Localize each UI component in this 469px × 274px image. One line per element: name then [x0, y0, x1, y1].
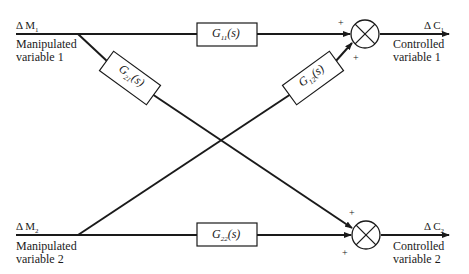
block-g11-label: G11(s)	[212, 27, 240, 45]
m2-base: Δ M	[16, 220, 35, 232]
output-signal-c2: Δ C2	[424, 220, 444, 238]
sum2-plus-bottom: +	[342, 246, 348, 259]
input-label-m2: Manipulated variable 2	[16, 240, 77, 266]
m1-sub: 1	[35, 26, 39, 34]
output-label-c2: Controlled variable 2	[393, 240, 444, 266]
m1-label-line2: variable 1	[16, 51, 77, 64]
c1-base: Δ C	[424, 19, 441, 31]
m2-label-line2: variable 2	[16, 253, 77, 266]
input-signal-m1: Δ M1	[16, 19, 39, 37]
input-label-m1: Manipulated variable 1	[16, 38, 77, 64]
block-g22-label: G22(s)	[212, 228, 240, 246]
g22-arg: (s)	[228, 227, 241, 241]
m1-to-g21-line	[78, 34, 108, 62]
g22-base: G	[212, 227, 221, 241]
c1-label-line2: variable 1	[393, 51, 444, 64]
sum1-plus-bottom: +	[353, 51, 359, 64]
summing-junction-1	[351, 20, 379, 48]
g11-arg: (s)	[227, 26, 240, 40]
output-signal-c1: Δ C1	[424, 19, 444, 37]
sum1-plus-top: +	[338, 16, 344, 29]
g12-to-sum1-line	[335, 43, 352, 62]
output-label-c1: Controlled variable 1	[393, 38, 444, 64]
c2-base: Δ C	[424, 220, 441, 232]
g21-to-sum2-line	[152, 94, 352, 228]
m2-sub: 2	[35, 227, 39, 235]
c1-sub: 1	[441, 26, 445, 34]
c2-label-line2: variable 2	[393, 253, 444, 266]
summing-junction-2	[352, 221, 380, 249]
g11-base: G	[212, 26, 221, 40]
sum2-plus-top: +	[349, 206, 355, 219]
m1-base: Δ M	[16, 19, 35, 31]
g22-sub: 22	[221, 235, 228, 243]
c2-sub: 2	[441, 227, 445, 235]
input-signal-m2: Δ M2	[16, 220, 39, 238]
